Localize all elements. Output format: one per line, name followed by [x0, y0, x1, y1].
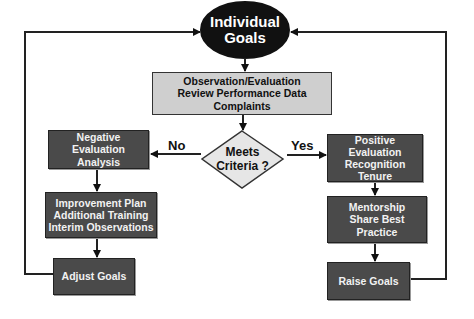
raise-goals-box: Raise Goals: [327, 262, 410, 300]
start-node: Individual Goals: [201, 2, 289, 58]
observe-line2: Review Performance Data: [178, 87, 307, 99]
adjust-goals-box: Adjust Goals: [53, 258, 135, 295]
decision-line2: Criteria ?: [216, 159, 269, 173]
start-line1: Individual: [210, 14, 280, 31]
negative-evaluation-box: Negative Evaluation Analysis: [48, 130, 149, 169]
improvement-line3: Interim Observations: [48, 221, 153, 233]
observe-line3: Complaints: [213, 100, 270, 112]
observation-box: Observation/Evaluation Review Performanc…: [152, 72, 332, 115]
improvement-line2: Additional Training: [53, 209, 148, 221]
improvement-plan-box: Improvement Plan Additional Training Int…: [45, 192, 157, 238]
adjust-line1: Adjust Goals: [62, 270, 127, 282]
no-label: No: [168, 138, 185, 153]
positive-evaluation-box: Positive Evaluation Recognition Tenure: [327, 134, 423, 182]
positive-line1: Positive Evaluation: [328, 134, 422, 158]
negative-line2: Analysis: [77, 156, 120, 168]
decision-label: Meets Criteria ?: [202, 138, 283, 180]
yes-label: Yes: [291, 138, 313, 153]
improvement-line1: Improvement Plan: [55, 197, 146, 209]
start-line2: Goals: [224, 30, 266, 47]
observe-line1: Observation/Evaluation: [183, 75, 300, 87]
negative-line1: Negative Evaluation: [49, 131, 148, 155]
mentorship-box: Mentorship Share Best Practice: [327, 196, 427, 243]
decision-line1: Meets: [225, 145, 259, 159]
mentorship-line2: Share Best Practice: [328, 213, 426, 237]
positive-line2: Recognition: [345, 158, 406, 170]
positive-line3: Tenure: [358, 170, 392, 182]
mentorship-line1: Mentorship: [349, 201, 406, 213]
raise-line1: Raise Goals: [338, 275, 398, 287]
